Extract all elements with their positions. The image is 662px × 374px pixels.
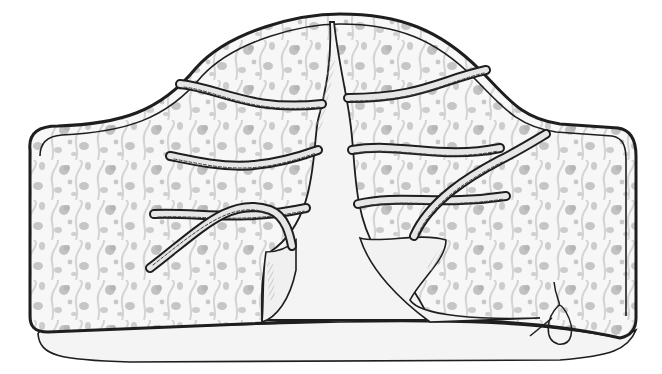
illustration-canvas: fabric cover with tie strips (0, 0, 662, 374)
fabric-cover-drawing (0, 0, 662, 374)
